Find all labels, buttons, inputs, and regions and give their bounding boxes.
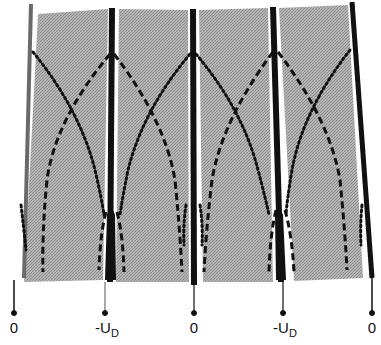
potential-label-udrain-2: -UD: [273, 320, 297, 339]
label-subscript: D: [111, 327, 119, 339]
panel-4: [279, 5, 363, 281]
terminal-dot-0: [12, 311, 17, 316]
terminal-dot-2: [192, 311, 197, 316]
terminal-dot-4: [370, 311, 375, 316]
label-subscript: D: [289, 327, 297, 339]
terminal-dot-3: [281, 311, 286, 316]
potential-label-right: 0: [368, 320, 376, 339]
electrode-0-center: [193, 9, 194, 285]
potential-label-udrain-1: -UD: [95, 320, 119, 339]
electrode-udrain-1-tip: [105, 205, 116, 280]
label-text: 0: [10, 319, 18, 336]
dotted-inner-r: [361, 205, 362, 245]
electrode-udrain-2-tip: [275, 205, 286, 280]
electrode-diagram: 0 -UD 0 -UD 0: [0, 0, 381, 345]
label-text: 0: [368, 319, 376, 336]
terminal-dot-1: [103, 311, 108, 316]
panel-1: [24, 9, 108, 282]
label-text: -U: [273, 319, 289, 336]
dotted-inner-c-right: [200, 205, 202, 245]
potential-label-0: 0: [10, 320, 18, 339]
panel-3: [199, 8, 273, 282]
label-text: 0: [190, 319, 198, 336]
potential-label-center: 0: [190, 320, 198, 339]
panel-2: [116, 9, 189, 282]
label-text: -U: [95, 319, 111, 336]
